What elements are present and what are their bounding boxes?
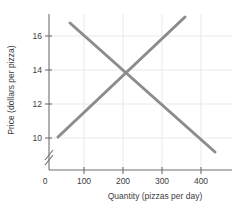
x-axis-title: Quantity (pizzas per day) bbox=[108, 191, 203, 201]
chart-canvas: 16 14 12 10 0 100 200 300 400 Quantity (… bbox=[0, 0, 234, 210]
x-tick-label-200: 200 bbox=[116, 176, 130, 186]
y-tick-label-10: 10 bbox=[33, 133, 43, 143]
y-axis-title: Price (dollars per pizza) bbox=[6, 45, 16, 134]
origin-tick-label: 0 bbox=[43, 176, 48, 186]
x-tick-label-400: 400 bbox=[194, 176, 208, 186]
vertical-gridlines bbox=[84, 14, 201, 170]
y-tick-label-12: 12 bbox=[33, 99, 43, 109]
y-tick-label-16: 16 bbox=[33, 31, 43, 41]
y-tick-label-14: 14 bbox=[33, 65, 43, 75]
x-tick-label-300: 300 bbox=[155, 176, 169, 186]
demand-curve bbox=[70, 23, 215, 152]
supply-demand-chart: 16 14 12 10 0 100 200 300 400 Quantity (… bbox=[0, 0, 234, 210]
x-tick-label-100: 100 bbox=[77, 176, 91, 186]
supply-curve bbox=[58, 17, 185, 137]
